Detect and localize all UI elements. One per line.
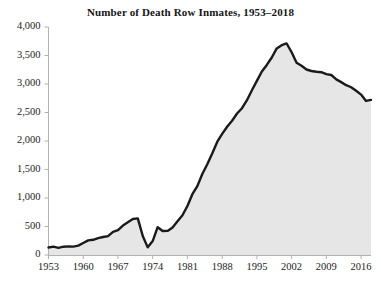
y-axis-ticks	[45, 27, 49, 255]
chart-plot-area	[0, 0, 381, 282]
y-tick-label: 3,500	[0, 49, 41, 60]
y-tick-label: 1,000	[0, 191, 41, 202]
y-tick-label: 2,000	[0, 134, 41, 145]
y-tick-label: 2,500	[0, 106, 41, 117]
area-fill	[49, 43, 372, 255]
y-tick-label: 4,000	[0, 20, 41, 31]
y-tick-label: 500	[0, 220, 41, 231]
y-tick-label: 3,000	[0, 77, 41, 88]
y-tick-label: 0	[0, 248, 41, 259]
x-tick-label: 2016	[341, 261, 381, 272]
y-tick-label: 1,500	[0, 163, 41, 174]
chart-figure: Number of Death Row Inmates, 1953–2018 0…	[0, 0, 381, 282]
